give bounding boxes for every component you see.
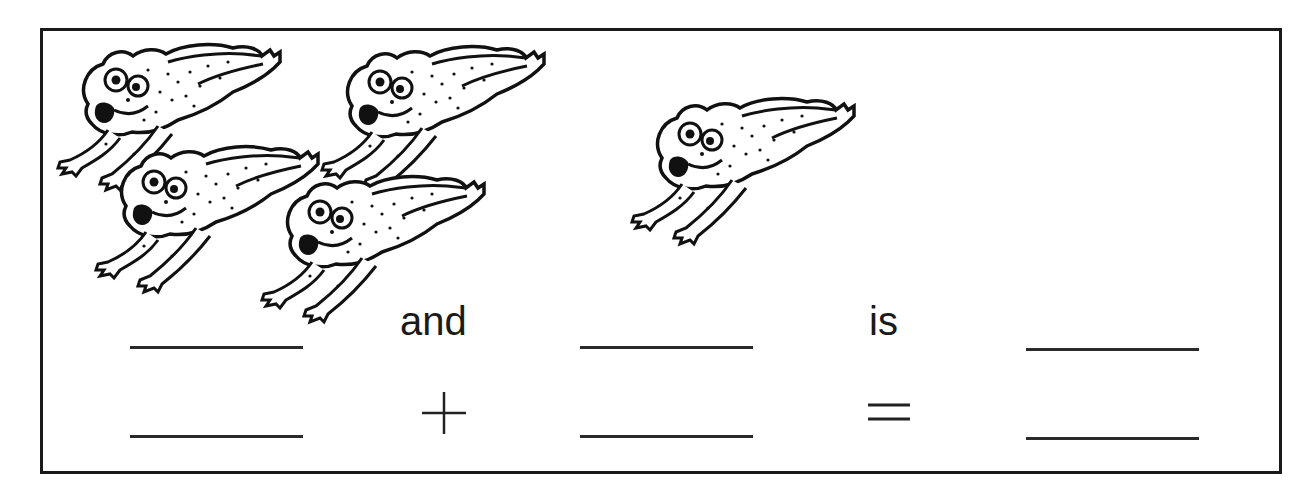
equation-blank-1[interactable] xyxy=(130,435,303,438)
equals-sign xyxy=(866,400,912,424)
frog-icon xyxy=(622,88,862,248)
answer-blank-1[interactable] xyxy=(130,346,303,349)
answer-blank-3[interactable] xyxy=(1026,348,1199,351)
answer-blank-2[interactable] xyxy=(580,346,753,349)
word-and: and xyxy=(400,301,467,341)
plus-sign xyxy=(418,390,470,436)
equation-blank-3[interactable] xyxy=(1026,437,1199,440)
equation-blank-2[interactable] xyxy=(580,435,753,438)
word-is: is xyxy=(869,301,898,341)
